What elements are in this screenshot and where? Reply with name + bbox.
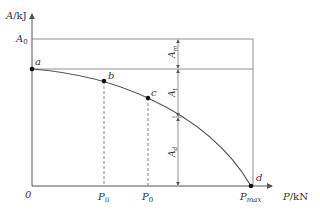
- point-a-label: a: [35, 56, 41, 67]
- origin-label: 0: [25, 189, 32, 200]
- point-b: [102, 79, 107, 84]
- am-label: Am: [167, 46, 178, 60]
- point-c-label: c: [151, 87, 157, 98]
- ad-label: Ad: [167, 147, 178, 159]
- x-axis-label: P/kN: [282, 191, 308, 202]
- p-0-label: P0: [141, 191, 153, 204]
- energy-curve: [32, 69, 251, 186]
- point-a: [30, 67, 35, 72]
- at-label: At: [167, 88, 178, 99]
- p-ii-label: PII: [97, 191, 110, 203]
- point-c: [146, 96, 151, 101]
- a0-label: A0: [15, 33, 28, 46]
- y-axis-label: A/kJ: [5, 10, 27, 21]
- point-b-label: b: [108, 70, 114, 81]
- point-d: [249, 184, 254, 189]
- point-d-label: d: [256, 172, 262, 183]
- energy-diagram: A/kJ A0 a b c d 0 PII P0 Pmax P/kN Am At…: [0, 0, 320, 213]
- p-max-label: Pmax: [239, 191, 262, 204]
